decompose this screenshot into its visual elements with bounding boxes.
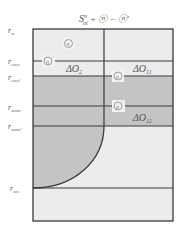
svg-text:rw: rw xyxy=(8,26,15,36)
axis-label-r-owo: rowo xyxy=(8,57,20,67)
axis-label-r-wo: rwo xyxy=(10,184,19,194)
svg-text:rwo: rwo xyxy=(10,184,19,194)
svg-text:n: n xyxy=(116,104,119,110)
axis-label-r-owo-prime: rowo' xyxy=(8,73,21,83)
svg-text:rwom: rwom xyxy=(8,103,21,113)
svg-text:n: n xyxy=(116,74,119,80)
axis-label-r-wom-prime: rwom' xyxy=(8,122,23,132)
axis-label-r-wom: rwom xyxy=(8,103,21,113)
circled-n-marker-right: n xyxy=(112,70,124,82)
svg-text:n: n xyxy=(46,59,49,65)
svg-text:n: n xyxy=(67,41,70,47)
circled-n-marker-top: n xyxy=(63,38,74,49)
svg-text:rowo': rowo' xyxy=(8,73,21,83)
svg-text:rowo: rowo xyxy=(8,57,20,67)
diagram-canvas: Snot + ⓝ − ⓝ' rw rowo rowo' rwom rwom' r… xyxy=(0,0,185,235)
svg-text:rwom': rwom' xyxy=(8,122,23,132)
circled-n-prime-marker-right: n ' xyxy=(112,100,125,112)
diagram-title: Snot + ⓝ − ⓝ' xyxy=(79,13,130,26)
axis-label-r-w: rw xyxy=(8,26,15,36)
svg-text:Snot + ⓝ − ⓝ': Snot + ⓝ − ⓝ' xyxy=(79,13,130,26)
circled-n-prime-marker-left: n ' xyxy=(42,55,55,67)
